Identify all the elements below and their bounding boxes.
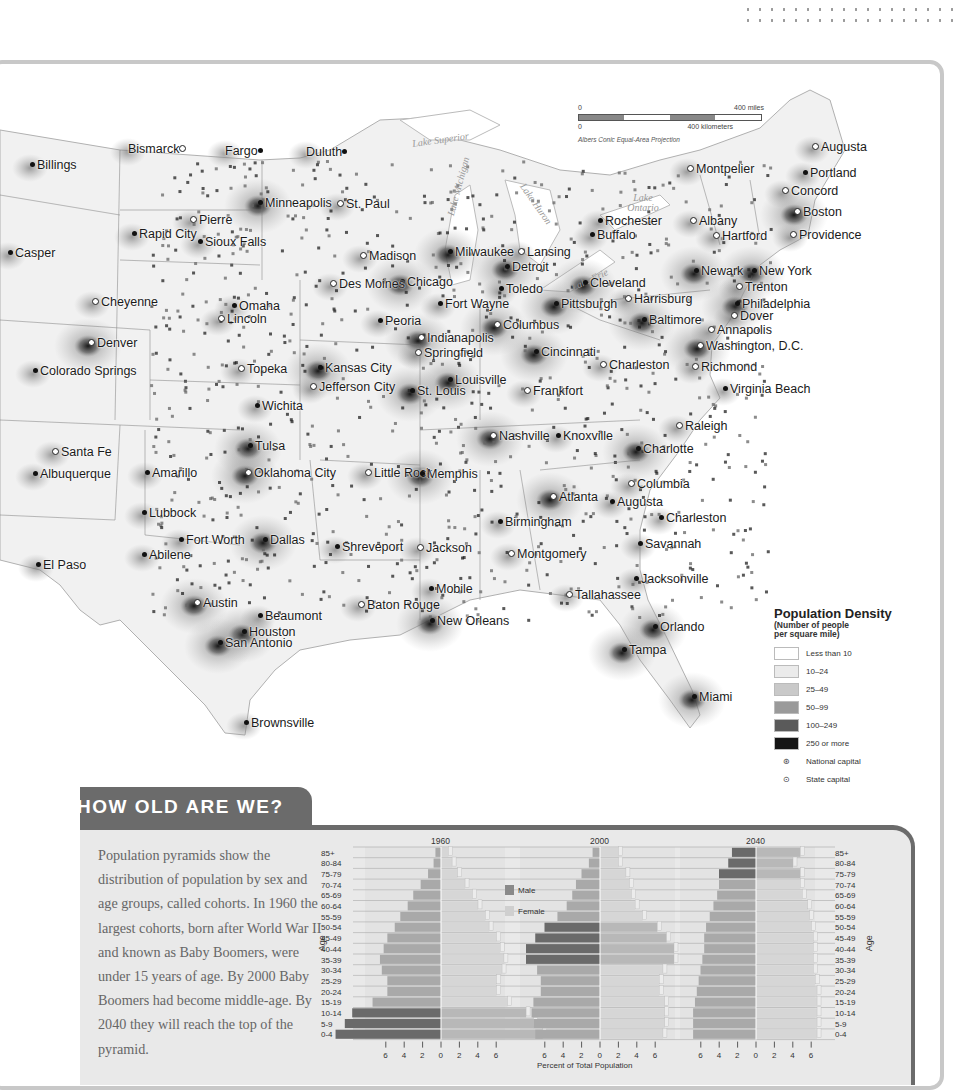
city-name: Washington, D.C. <box>706 339 804 353</box>
city-dot-icon <box>378 318 383 323</box>
x-tick-label: 6 <box>494 1051 499 1060</box>
age-label-left: 75-79 <box>321 870 342 879</box>
female-bar <box>441 923 489 932</box>
bar-3d-edge <box>626 868 630 877</box>
male-bar <box>567 901 600 910</box>
bar-3d-edge <box>465 878 469 887</box>
city-label: Tallahassee <box>566 589 641 602</box>
state-capital-icon <box>365 469 372 476</box>
city-label: Dallas <box>263 534 305 547</box>
city-label: Lincoln <box>218 313 267 326</box>
city-label: Knoxville <box>556 430 613 443</box>
scale-miles-start: 0 <box>578 104 582 111</box>
city-name: Abilene <box>149 548 191 562</box>
city-name: Santa Fe <box>61 445 112 459</box>
city-label: Chicago <box>400 276 453 289</box>
male-bar <box>545 923 601 932</box>
city-name: Indianapolis <box>427 331 494 345</box>
age-label-right: 50-54 <box>835 923 856 932</box>
female-bar <box>600 976 659 985</box>
male-bar <box>352 1008 441 1017</box>
age-label-right: 60-64 <box>835 902 856 911</box>
city-name: Birmingham <box>505 515 572 529</box>
city-dot-icon <box>132 231 137 236</box>
state-capital-icon <box>708 326 715 333</box>
male-bar <box>576 880 600 889</box>
city-name: Charleston <box>666 511 726 525</box>
city-label: Albany <box>690 215 737 228</box>
city-label: Providence <box>790 229 862 242</box>
state-capital-icon <box>508 550 515 557</box>
city-name: Austin <box>203 596 238 610</box>
state-capital-icon <box>628 480 635 487</box>
age-label-left: 25-29 <box>321 977 342 986</box>
state-capital-icon <box>518 248 525 255</box>
city-dot-icon <box>248 443 253 448</box>
age-label-right: 30-34 <box>835 966 856 975</box>
bar-3d-edge <box>657 921 661 930</box>
x-tick-label: 4 <box>402 1051 407 1060</box>
city-label: Casper <box>8 247 55 260</box>
bar-3d-edge <box>800 868 804 877</box>
x-tick-label: 6 <box>809 1051 814 1060</box>
city-dot-icon <box>583 280 588 285</box>
city-dot-icon <box>142 510 147 515</box>
age-label-right: 5-9 <box>835 1020 847 1029</box>
city-label: Savannah <box>638 538 701 551</box>
state-capital-icon <box>417 544 424 551</box>
city-name: Chicago <box>407 275 453 289</box>
age-label-right: 75-79 <box>835 870 856 879</box>
state-capital-icon <box>490 432 497 439</box>
bar-3d-edge <box>489 921 493 930</box>
legend-label: 100–249 <box>806 721 837 730</box>
male-bar <box>533 998 600 1007</box>
legend-label: 50–99 <box>806 703 828 712</box>
city-name: Mobile <box>436 582 473 596</box>
city-dot-icon <box>448 377 453 382</box>
male-bar <box>382 966 441 975</box>
city-label: San Antonio <box>218 637 292 650</box>
city-label: Amarillo <box>145 467 197 480</box>
state-capital-icon <box>337 200 344 207</box>
city-name: Dover <box>740 309 773 323</box>
state-capital-icon <box>88 339 95 346</box>
city-dot-icon <box>318 365 323 370</box>
male-bar <box>702 955 756 964</box>
state-capital-icon <box>218 315 225 322</box>
x-tick-label: 6 <box>653 1051 658 1060</box>
age-label-right: 0-4 <box>835 1030 847 1039</box>
city-label: Augusta <box>812 141 867 154</box>
male-bar <box>693 1019 756 1028</box>
city-dot-icon <box>198 239 203 244</box>
city-dot-icon <box>438 301 443 306</box>
female-bar <box>441 848 448 857</box>
age-label-right: 35-39 <box>835 956 856 965</box>
city-label: Tampa <box>622 644 667 657</box>
male-bar <box>336 1030 441 1039</box>
male-bar <box>582 869 601 878</box>
city-name: Jackson <box>426 541 472 555</box>
population-density-legend: Population Density (Number of people per… <box>774 606 934 788</box>
age-label-right: 40-44 <box>835 945 856 954</box>
city-label: Duluth <box>306 146 349 159</box>
city-label: Washington, D.C. <box>697 340 804 353</box>
x-tick-label: 2 <box>616 1051 621 1060</box>
female-bar <box>441 976 497 985</box>
bar-3d-edge <box>659 975 663 984</box>
male-bar <box>693 1008 756 1017</box>
female-bar <box>756 933 813 942</box>
scale-km-end: 400 kilometers <box>687 123 733 130</box>
male-bar <box>408 901 441 910</box>
city-label: Denver <box>88 337 137 350</box>
city-dot-icon <box>653 624 658 629</box>
state-capital-icon <box>190 216 197 223</box>
female-bar <box>600 923 657 932</box>
age-label-left: 70-74 <box>321 881 342 890</box>
city-dot-icon <box>179 537 184 542</box>
city-name: Fort Worth <box>186 533 245 547</box>
x-tick-label: 4 <box>561 1051 566 1060</box>
legend-swatch <box>774 665 799 678</box>
male-bar <box>421 880 441 889</box>
city-label: Des Moines <box>330 278 405 291</box>
male-bar <box>526 944 600 953</box>
